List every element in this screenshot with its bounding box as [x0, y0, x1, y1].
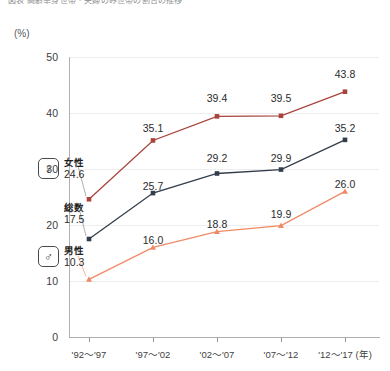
value-label-female-4: 43.8: [335, 68, 355, 80]
value-label-male-4: 26.0: [335, 178, 355, 190]
y-axis-unit-label: (%): [14, 28, 30, 39]
legend-total-value: 17.5: [64, 213, 84, 225]
legend-female-text: 女性 24.6: [64, 157, 84, 181]
legend-total-text: 総数 17.5: [64, 202, 84, 226]
legend-female: ♀ 女性 24.6: [38, 157, 84, 181]
gridline-40: [69, 113, 379, 114]
top-caption: 図表 高齢単身世帯・夫婦のみ世帯の割合の推移: [8, 0, 308, 6]
legend-female-value: 24.6: [64, 168, 84, 180]
value-label-total-4: 35.2: [335, 122, 355, 134]
value-label-total-1: 25.7: [143, 180, 163, 192]
legend-male: ♂ 男性 10.3: [38, 245, 84, 269]
legend-male-text: 男性 10.3: [64, 245, 84, 269]
chart-page: 図表 高齢単身世帯・夫婦のみ世帯の割合の推移 (%) 50 40 30 20 1…: [0, 0, 390, 371]
gridline-10: [69, 281, 379, 282]
legend-female-name: 女性: [64, 157, 84, 168]
gridline-30: [69, 169, 379, 170]
x-axis-line: [69, 337, 380, 338]
value-label-total-2: 29.2: [207, 152, 227, 164]
value-label-female-3: 39.5: [271, 92, 291, 104]
value-label-male-2: 18.8: [207, 218, 227, 230]
legend-male-value: 10.3: [64, 256, 84, 268]
legend-total-name: 総数: [64, 202, 84, 213]
value-label-male-1: 16.0: [143, 234, 163, 246]
venus-symbol-icon: ♀: [38, 158, 59, 179]
x-label-4: '12〜'17 (年): [303, 347, 387, 361]
value-label-female-2: 39.4: [207, 92, 227, 104]
y-tick-20: 20: [32, 219, 58, 231]
value-label-male-3: 19.9: [271, 208, 291, 220]
legend-male-name: 男性: [64, 245, 84, 256]
y-tick-40: 40: [32, 107, 58, 119]
y-tick-10: 10: [32, 275, 58, 287]
legend-total: 総数 17.5: [64, 202, 84, 226]
x-tick-4: [345, 337, 346, 342]
y-axis-line: [69, 57, 70, 338]
x-tick-2: [217, 337, 218, 342]
gridline-50: [69, 57, 379, 58]
y-tick-50: 50: [32, 51, 58, 63]
x-tick-0: [89, 337, 90, 342]
value-label-female-1: 35.1: [143, 122, 163, 134]
x-tick-3: [281, 337, 282, 342]
y-tick-0: 0: [32, 331, 58, 343]
mars-symbol-icon: ♂: [38, 246, 59, 267]
value-label-total-3: 29.9: [271, 152, 291, 164]
x-tick-1: [153, 337, 154, 342]
